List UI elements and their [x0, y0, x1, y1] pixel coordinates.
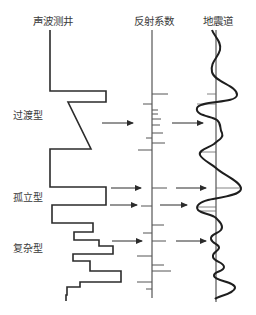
seismic-waveform	[197, 30, 241, 299]
reflection-spikes	[137, 94, 171, 289]
label-transitional: 过渡型	[13, 109, 43, 121]
header-seismic-trace: 地震道	[203, 15, 234, 27]
header-reflection-coefficient: 反射系数	[134, 15, 175, 27]
label-isolated: 孤立型	[13, 191, 43, 203]
sonic-log-curve	[50, 30, 121, 301]
arrows	[102, 123, 206, 241]
synthetic-seismogram-diagram: 声波测井 反射系数 地震道 过渡型 孤立型 复杂型	[0, 0, 256, 315]
header-sonic-log: 声波测井	[33, 15, 73, 27]
label-complex: 复杂型	[13, 242, 43, 254]
